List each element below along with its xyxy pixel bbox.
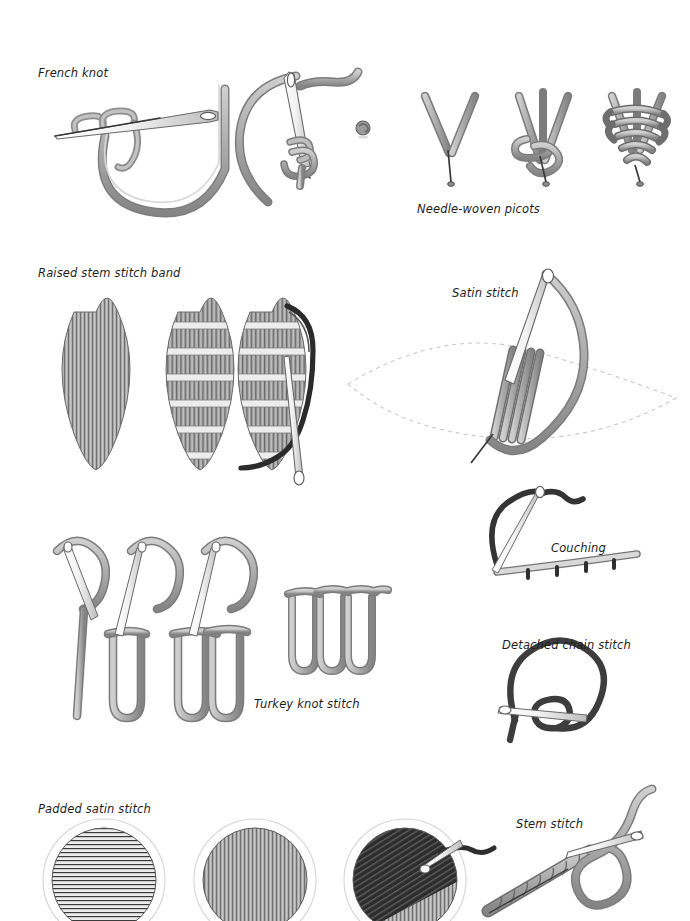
figure-padded-satin-step2 (194, 819, 316, 921)
figure-padded-satin-step3 (344, 819, 494, 921)
figure-couching (492, 486, 637, 578)
label-couching: Couching (551, 541, 606, 555)
label-satin-stitch: Satin stitch (452, 286, 519, 300)
figure-french-knot-step2 (239, 72, 358, 202)
figure-picot-step1 (425, 96, 475, 186)
diagram-canvas: French knot Needle-woven picots Raised s… (0, 0, 690, 921)
figure-turkey-knot-step1 (57, 541, 106, 716)
figure-detached-chain-stitch (498, 640, 604, 740)
figure-turkey-knot-row (288, 589, 388, 671)
stitch-illustrations (0, 0, 690, 921)
figure-picot-step3 (606, 92, 668, 186)
figure-picot-step2 (515, 92, 568, 186)
label-french-knot: French knot (38, 66, 108, 80)
figure-raised-stem-step3 (217, 290, 347, 485)
figure-turkey-knot-step2 (108, 541, 180, 718)
figure-raised-stem-step1 (40, 290, 170, 480)
figure-padded-satin-step1 (43, 819, 165, 921)
label-stem-stitch: Stem stitch (516, 817, 583, 831)
figure-french-knot-finished (356, 121, 370, 139)
label-raised-stem-stitch-band: Raised stem stitch band (38, 266, 181, 280)
label-detached-chain-stitch: Detached chain stitch (502, 638, 631, 652)
label-turkey-knot-stitch: Turkey knot stitch (254, 697, 360, 711)
label-padded-satin-stitch: Padded satin stitch (38, 802, 151, 816)
figure-french-knot-step1 (55, 85, 225, 213)
figure-turkey-knot-step3 (173, 541, 254, 718)
figure-stem-stitch (488, 789, 652, 913)
label-needle-woven-picots: Needle-woven picots (417, 202, 540, 216)
